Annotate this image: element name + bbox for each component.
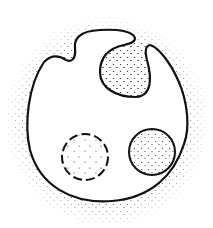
diagram-canvas	[0, 0, 213, 228]
cell-diagram	[0, 0, 213, 228]
